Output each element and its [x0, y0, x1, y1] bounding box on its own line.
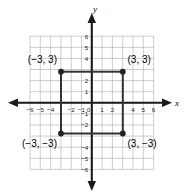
y-tick-pos-5: 5 [85, 44, 89, 51]
x-axis-left-arrow [8, 99, 18, 107]
y-axis-label: y [92, 4, 97, 14]
x-axis-right-arrow [162, 99, 172, 107]
label-vertex-top-right: (3, 3) [128, 54, 151, 65]
x-tick-neg-5: −5 [37, 106, 45, 113]
x-tick-pos-6: 6 [152, 106, 156, 113]
y-axis-bottom-arrow [88, 181, 96, 191]
x-axis-label: x [174, 98, 179, 108]
y-tick-neg-1: −1 [81, 110, 89, 117]
y-tick-neg-4: −4 [81, 144, 89, 151]
x-tick-pos-1: 1 [100, 106, 104, 113]
coordinate-plane-svg: −6 −5 −4 −2 −1 0 1 2 4 5 6 6 5 4 2 1 −1 … [0, 0, 186, 193]
y-tick-neg-6: −6 [81, 166, 89, 173]
vertex-point-bottom-right [120, 131, 126, 137]
label-vertex-bottom-left: (−3, −3) [22, 138, 57, 149]
x-tick-pos-2: 2 [111, 106, 115, 113]
vertex-point-top-right [120, 69, 126, 75]
label-vertex-bottom-right: (3, −3) [128, 138, 157, 149]
x-tick-neg-6: −6 [26, 106, 34, 113]
y-tick-pos-6: 6 [85, 33, 89, 40]
vertex-point-top-left [58, 69, 64, 75]
y-tick-neg-5: −5 [81, 155, 89, 162]
label-vertex-top-left: (−3, 3) [28, 54, 57, 65]
y-tick-pos-2: 2 [85, 77, 89, 84]
y-tick-pos-4: 4 [85, 55, 89, 62]
x-tick-pos-5: 5 [142, 106, 146, 113]
x-tick-neg-4: −4 [47, 106, 55, 113]
coordinate-plane-figure: −6 −5 −4 −2 −1 0 1 2 4 5 6 6 5 4 2 1 −1 … [0, 0, 186, 193]
x-tick-neg-2: −2 [68, 106, 76, 113]
x-tick-pos-4: 4 [131, 106, 135, 113]
y-axis-top-arrow [88, 13, 96, 23]
vertex-point-bottom-left [58, 131, 64, 137]
y-tick-pos-1: 1 [85, 88, 89, 95]
y-tick-neg-2: −2 [81, 121, 89, 128]
